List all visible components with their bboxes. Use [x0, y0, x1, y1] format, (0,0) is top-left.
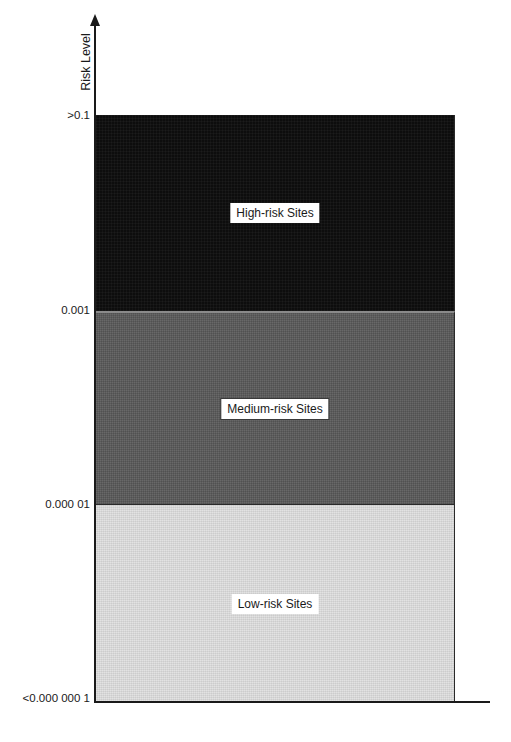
risk-level-chart: High-risk Sites Medium-risk Sites Low-ri… [0, 0, 511, 742]
band-label-low-risk: Low-risk Sites [232, 594, 319, 614]
y-tick-label-bottom: <0.000 000 1 [23, 691, 90, 705]
y-tick-label-high-medium: 0.001 [61, 303, 90, 317]
y-tick-label-medium-low: 0.000 01 [45, 497, 90, 511]
y-axis-line [94, 22, 96, 703]
x-axis-line [94, 701, 490, 703]
band-medium-risk: Medium-risk Sites [96, 311, 455, 505]
band-low-risk: Low-risk Sites [96, 505, 455, 702]
band-label-medium-risk: Medium-risk Sites [221, 399, 328, 419]
y-tick-label-top: >0.1 [67, 108, 90, 122]
band-label-high-risk: High-risk Sites [230, 203, 319, 223]
band-high-risk: High-risk Sites [96, 115, 455, 311]
y-axis-title: Risk Level [79, 33, 93, 91]
y-axis-arrow-icon [90, 14, 100, 26]
